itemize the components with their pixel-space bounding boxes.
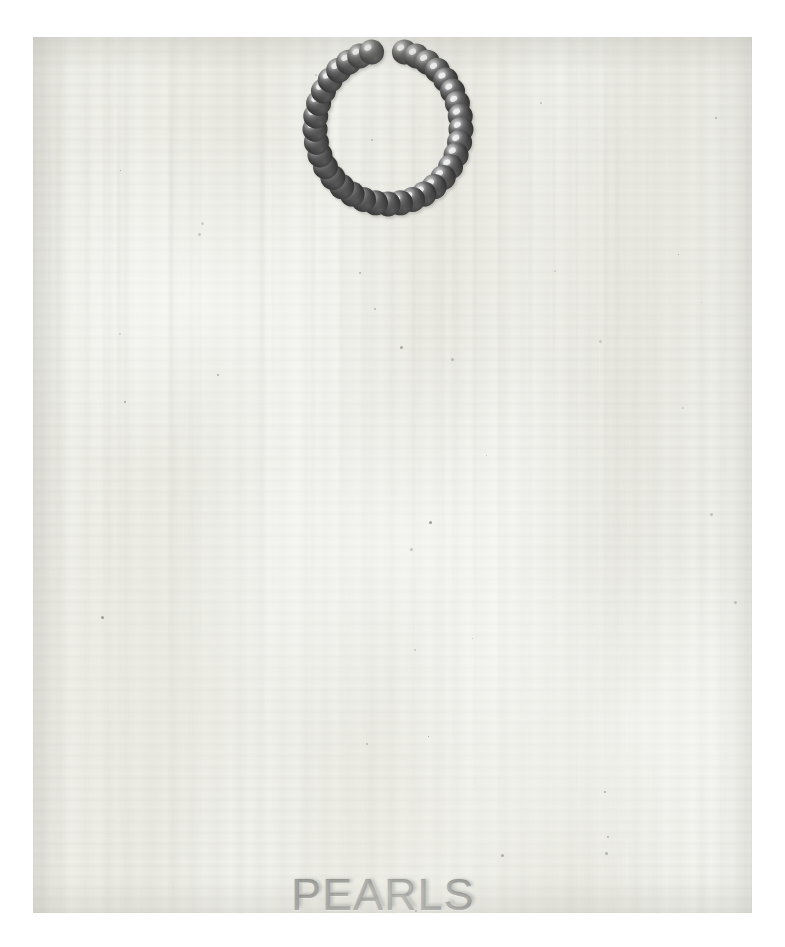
pearl-necklace — [293, 37, 483, 223]
pearls-caption: PEARLS PEARLS — [291, 865, 491, 913]
pearl-necklace-svg — [293, 37, 483, 223]
painted-canvas-panel: PEARLS PEARLS — [33, 37, 752, 913]
artwork-frame: PEARLS PEARLS — [0, 0, 785, 947]
pearl-bead-rimlight — [359, 39, 384, 64]
pearls-caption-text: PEARLS — [291, 872, 475, 913]
pearl-bead-group — [303, 39, 474, 216]
